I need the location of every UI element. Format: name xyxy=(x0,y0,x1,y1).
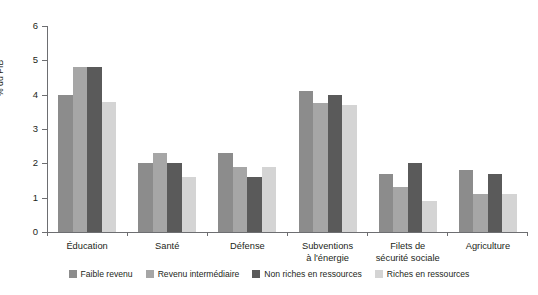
bar xyxy=(138,163,153,232)
bar xyxy=(102,102,117,232)
bar-group xyxy=(368,26,448,232)
x-axis-category-label: Filets desécurité sociale xyxy=(368,241,448,264)
legend-label: Revenu intermédiaire xyxy=(158,270,240,279)
x-axis-tick-mark xyxy=(287,232,288,236)
bar xyxy=(73,67,88,232)
bar xyxy=(459,170,474,232)
x-axis-tick-mark xyxy=(127,232,128,236)
x-axis-category-label: Défense xyxy=(207,241,287,253)
x-axis-category-label-line: Filets de xyxy=(368,241,448,253)
chart-legend: Faible revenuRevenu intermédiaireNon ric… xyxy=(0,270,538,279)
bar xyxy=(408,163,423,232)
legend-item: Riches en ressources xyxy=(375,270,470,279)
bar xyxy=(247,177,262,232)
bar xyxy=(262,167,277,232)
y-axis-title: % du PIB xyxy=(0,60,5,96)
bar-chart: 0123456 % du PIB Faible revenuRevenu int… xyxy=(0,0,538,295)
bar xyxy=(379,174,394,232)
x-axis-tick-mark xyxy=(367,232,368,236)
y-axis-tick-label: 0 xyxy=(33,227,38,237)
legend-item: Non riches en ressources xyxy=(252,270,361,279)
x-axis-category-label-line: Subventions xyxy=(288,241,368,253)
bar xyxy=(422,201,437,232)
bar-group xyxy=(127,26,207,232)
bar-group xyxy=(448,26,528,232)
y-axis-tick-label: 5 xyxy=(33,56,38,66)
bar xyxy=(313,103,328,232)
x-axis-tick-mark xyxy=(207,232,208,236)
legend-item: Revenu intermédiaire xyxy=(146,270,240,279)
bar xyxy=(233,167,248,232)
y-axis-tick-label: 1 xyxy=(33,193,38,203)
x-axis-category-label-line: Éducation xyxy=(47,241,127,253)
legend-label: Faible revenu xyxy=(81,270,133,279)
y-axis-tick-label: 3 xyxy=(33,124,38,134)
x-axis-category-label: Santé xyxy=(127,241,207,253)
bar xyxy=(182,177,197,232)
legend-swatch xyxy=(69,270,77,278)
y-axis-tick-label: 6 xyxy=(33,21,38,31)
bar-group xyxy=(47,26,127,232)
bar xyxy=(153,153,168,232)
x-axis-tick-mark xyxy=(447,232,448,236)
x-axis-category-label: Agriculture xyxy=(448,241,528,253)
legend-swatch xyxy=(375,270,383,278)
bar xyxy=(328,95,343,232)
x-axis-category-label-line: Agriculture xyxy=(448,241,528,253)
legend-swatch xyxy=(252,270,260,278)
bar xyxy=(299,91,314,232)
plot-area: 0123456 xyxy=(47,26,528,232)
bar xyxy=(87,67,102,232)
bar xyxy=(488,174,503,232)
bar xyxy=(393,187,408,232)
x-axis-category-label-line: Santé xyxy=(127,241,207,253)
x-axis-category-label: Subventionsà l'énergie xyxy=(288,241,368,264)
bar xyxy=(167,163,182,232)
x-axis-category-label-line: Défense xyxy=(207,241,287,253)
bar xyxy=(218,153,233,232)
y-axis-tick-label: 2 xyxy=(33,159,38,169)
bar-group xyxy=(288,26,368,232)
legend-label: Riches en ressources xyxy=(387,270,470,279)
bar xyxy=(342,105,357,232)
x-axis-category-label-line: sécurité sociale xyxy=(368,253,448,265)
bar xyxy=(58,95,73,232)
y-axis-tick-label: 4 xyxy=(33,90,38,100)
legend-label: Non riches en ressources xyxy=(264,270,361,279)
x-axis-tick-mark xyxy=(47,232,48,236)
bar xyxy=(502,194,517,232)
bar xyxy=(473,194,488,232)
x-axis-category-label-line: à l'énergie xyxy=(288,253,368,265)
bar-group xyxy=(207,26,287,232)
x-axis-category-label: Éducation xyxy=(47,241,127,253)
legend-item: Faible revenu xyxy=(69,270,133,279)
x-axis-tick-mark xyxy=(527,232,528,236)
legend-swatch xyxy=(146,270,154,278)
